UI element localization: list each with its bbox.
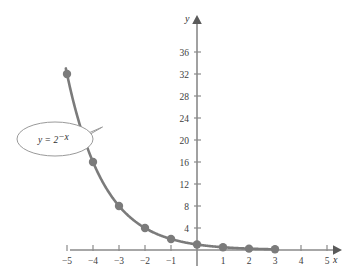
y-tick-label-4: 4 xyxy=(184,224,189,234)
data-point xyxy=(271,245,279,253)
x-tick-label--4: −4 xyxy=(88,256,98,266)
y-axis-arrowhead xyxy=(192,15,202,24)
y-tick-label-32: 32 xyxy=(180,70,190,80)
y-tick-labels: 4812162024283236 xyxy=(180,48,190,234)
data-point xyxy=(89,158,97,166)
y-tick-label-28: 28 xyxy=(180,92,190,102)
x-tick-labels: −5−4−3−2−112345 xyxy=(62,256,330,266)
curve-y-equals-2-to-the-minus-x xyxy=(66,68,275,249)
x-tick-label--5: −5 xyxy=(62,256,72,266)
callout-equation-exponent: −x xyxy=(58,132,69,142)
x-tick-label-1: 1 xyxy=(221,256,226,266)
x-tick-label--2: −2 xyxy=(140,256,150,266)
x-tick-label--3: −3 xyxy=(114,256,124,266)
data-point xyxy=(115,202,123,210)
data-point xyxy=(141,224,149,232)
x-tick-label-4: 4 xyxy=(299,256,304,266)
callout-equation-base: y = 2 xyxy=(37,135,58,145)
y-axis-label: y xyxy=(184,13,190,24)
data-point xyxy=(193,240,201,248)
y-tick-label-36: 36 xyxy=(180,48,190,58)
data-point xyxy=(167,235,175,243)
x-axis-label: x xyxy=(332,254,338,265)
exponential-decay-graph: x y −5−4−3−2−112345 4812162024283236 y =… xyxy=(0,0,352,278)
data-point xyxy=(245,244,253,252)
x-tick-label-5: 5 xyxy=(325,256,330,266)
data-point xyxy=(219,243,227,251)
data-point xyxy=(63,70,71,78)
x-tick-label-3: 3 xyxy=(273,256,278,266)
y-tick-label-20: 20 xyxy=(180,136,190,146)
y-tick-label-16: 16 xyxy=(180,158,190,168)
y-tick-label-24: 24 xyxy=(180,114,190,124)
y-tick-label-12: 12 xyxy=(180,180,190,190)
data-points xyxy=(63,70,279,254)
x-tick-label--1: −1 xyxy=(166,256,176,266)
x-tick-label-2: 2 xyxy=(247,256,252,266)
y-tick-label-8: 8 xyxy=(184,202,189,212)
